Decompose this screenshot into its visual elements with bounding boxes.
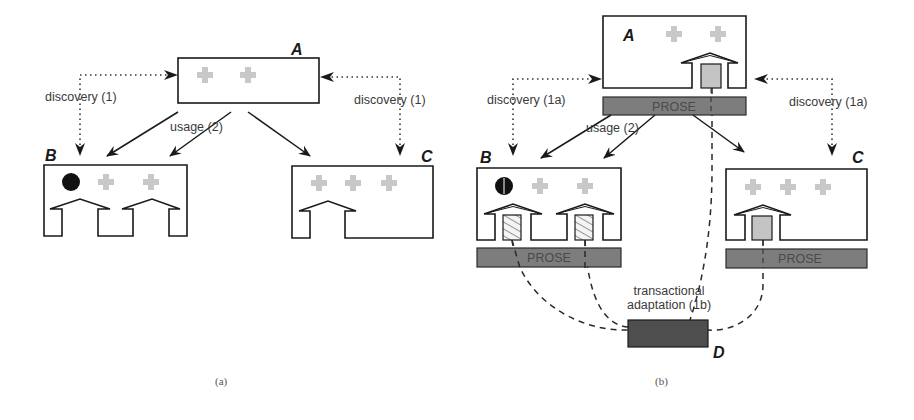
diagram-canvas: A B C discovery (1) discovery (1): [0, 0, 914, 420]
node-a-label: A: [622, 27, 635, 44]
filled-circle-icon: [62, 173, 80, 191]
component-cross-icon: [345, 175, 361, 191]
node-b-box: [44, 165, 187, 236]
component-cross-icon: [381, 175, 397, 191]
node-d-label: D: [713, 344, 725, 361]
transactional-label-line2: adaptation (1b): [627, 298, 711, 312]
node-c-box: [292, 166, 433, 238]
caption-a: (a): [215, 375, 228, 388]
discovery-right-label: discovery (1a): [789, 95, 868, 109]
usage-arrow: [107, 112, 178, 156]
discovery-right-line: [328, 77, 400, 150]
discovery-right-line: [762, 79, 832, 150]
node-a-label: A: [290, 41, 303, 58]
node-b-label: B: [480, 149, 492, 166]
arrowhead-icon: [754, 74, 768, 84]
node-c-box: [726, 169, 867, 240]
node-b-label: B: [45, 147, 57, 164]
discovery-left-label: discovery (1): [45, 90, 117, 104]
adapter-plug: [701, 64, 721, 88]
prose-label: PROSE: [652, 100, 696, 114]
usage-arrow: [170, 112, 231, 156]
adapter-plug-hatched: [503, 215, 521, 240]
prose-label: PROSE: [778, 252, 822, 266]
transactional-label-line1: transactional: [634, 284, 705, 298]
node-b-box: [477, 168, 621, 240]
component-cross-icon: [98, 174, 114, 190]
component-cross-icon: [143, 174, 159, 190]
node-c-label: C: [852, 149, 864, 166]
caption-b: (b): [655, 375, 668, 388]
arrowhead-icon: [588, 74, 602, 84]
discovery-left-label: discovery (1a): [487, 93, 566, 107]
panel-a: A B C discovery (1) discovery (1): [44, 41, 433, 388]
usage-arrow: [693, 115, 744, 152]
discovery-right-label: discovery (1): [354, 93, 426, 107]
adapter-plug-hatched: [575, 215, 593, 240]
discovery-left-line: [513, 79, 594, 150]
component-cross-icon: [311, 175, 327, 191]
node-c-label: C: [421, 148, 433, 165]
panel-b: A PROSE B PROSE C: [477, 16, 868, 388]
adapter-plug: [752, 216, 772, 240]
prose-label: PROSE: [527, 251, 571, 265]
usage-arrow: [248, 112, 310, 156]
usage-label: usage (2): [586, 121, 639, 135]
node-d-box: [628, 320, 708, 347]
usage-label: usage (2): [170, 120, 223, 134]
discovery-left-line: [80, 75, 170, 150]
node-a-box: [178, 58, 319, 103]
